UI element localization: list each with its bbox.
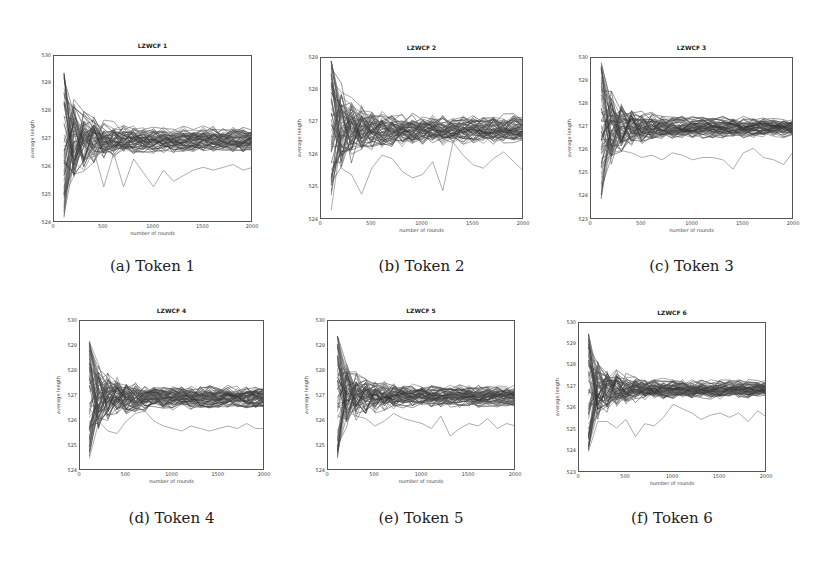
y-tick-label: 528 <box>309 368 325 373</box>
line-series-group <box>579 323 765 471</box>
subfigure-caption: (f) Token 6 <box>592 509 752 527</box>
x-tick-label: 0 <box>578 221 602 226</box>
chart-title: LZWCF 1 <box>53 42 252 49</box>
y-tick-label: 530 <box>560 320 576 325</box>
y-tick-label: 526 <box>560 405 576 410</box>
outlier-line <box>331 139 522 194</box>
x-tick-label: 2000 <box>754 474 778 479</box>
y-tick-label: 528 <box>302 87 318 92</box>
data-line <box>337 371 514 456</box>
y-tick-label: 528 <box>572 101 588 106</box>
x-axis-label: number of rounds <box>327 478 515 484</box>
y-tick-label: 527 <box>302 119 318 124</box>
y-tick-label: 525 <box>309 443 325 448</box>
y-tick-label: 527 <box>61 393 77 398</box>
y-tick-label: 525 <box>560 427 576 432</box>
line-series-group <box>591 58 792 218</box>
outlier-line <box>89 409 263 434</box>
x-tick-label: 2000 <box>240 224 264 229</box>
x-tick-label: 0 <box>67 472 91 477</box>
chart-title: LZWCF 5 <box>327 307 515 314</box>
chart-title: LZWCF 2 <box>320 44 523 51</box>
y-tick-label: 528 <box>61 368 77 373</box>
y-tick-label: 525 <box>572 170 588 175</box>
x-tick-label: 1000 <box>160 472 184 477</box>
x-tick-label: 500 <box>113 472 137 477</box>
x-tick-label: 1500 <box>730 221 754 226</box>
x-tick-label: 0 <box>566 474 590 479</box>
data-line <box>64 73 251 170</box>
x-axis-label: number of rounds <box>79 478 264 484</box>
y-tick-label: 529 <box>572 78 588 83</box>
y-axis-label: average length <box>55 365 61 425</box>
plot-area <box>53 55 252 222</box>
line-series-group <box>328 321 514 469</box>
x-axis-label: number of rounds <box>53 230 252 236</box>
x-tick-label: 2000 <box>781 221 805 226</box>
plot-area <box>327 320 515 470</box>
x-tick-label: 0 <box>308 221 332 226</box>
y-tick-label: 530 <box>35 53 51 58</box>
y-axis-label: average length <box>29 109 35 169</box>
y-tick-label: 524 <box>572 193 588 198</box>
x-tick-label: 2000 <box>511 221 535 226</box>
y-tick-label: 530 <box>309 318 325 323</box>
y-tick-label: 529 <box>35 80 51 85</box>
x-tick-label: 1000 <box>680 221 704 226</box>
y-tick-label: 530 <box>61 318 77 323</box>
y-tick-label: 525 <box>35 192 51 197</box>
y-tick-label: 525 <box>61 443 77 448</box>
y-tick-label: 526 <box>35 164 51 169</box>
y-tick-label: 529 <box>302 55 318 60</box>
y-axis-label: average length <box>303 365 309 425</box>
y-tick-label: 526 <box>61 418 77 423</box>
y-tick-label: 527 <box>560 384 576 389</box>
subfigure-caption: (b) Token 2 <box>342 257 502 275</box>
plot-area <box>79 320 264 470</box>
x-tick-label: 1500 <box>460 221 484 226</box>
line-series-group <box>54 56 251 221</box>
y-tick-label: 524 <box>560 448 576 453</box>
plot-area <box>590 57 793 219</box>
x-tick-label: 2000 <box>503 472 527 477</box>
subfigure-caption: (d) Token 4 <box>92 509 252 527</box>
outlier-line <box>601 144 792 170</box>
x-tick-label: 1000 <box>141 224 165 229</box>
x-tick-label: 0 <box>315 472 339 477</box>
y-axis-label: average length <box>296 108 302 168</box>
line-series-group <box>321 58 522 218</box>
y-axis-label: average length <box>566 108 572 168</box>
data-line <box>337 347 514 420</box>
x-axis-label: number of rounds <box>578 480 766 486</box>
chart-title: LZWCF 3 <box>590 44 793 51</box>
x-tick-label: 1000 <box>660 474 684 479</box>
line-series-group <box>80 321 263 469</box>
subfigure-caption: (e) Token 5 <box>341 509 501 527</box>
x-tick-label: 0 <box>41 224 65 229</box>
x-tick-label: 1500 <box>456 472 480 477</box>
y-tick-label: 526 <box>302 152 318 157</box>
y-tick-label: 530 <box>572 55 588 60</box>
y-tick-label: 526 <box>309 418 325 423</box>
x-tick-label: 2000 <box>252 472 276 477</box>
y-axis-label: average length <box>554 367 560 427</box>
y-tick-label: 525 <box>302 184 318 189</box>
subfigure-caption: (c) Token 3 <box>612 257 772 275</box>
plot-area <box>578 322 766 472</box>
plot-area <box>320 57 523 219</box>
x-axis-label: number of rounds <box>320 227 523 233</box>
y-tick-label: 528 <box>560 362 576 367</box>
data-line <box>64 77 251 177</box>
x-tick-label: 1000 <box>409 472 433 477</box>
y-tick-label: 529 <box>61 343 77 348</box>
x-tick-label: 500 <box>359 221 383 226</box>
subfigure-caption: (a) Token 1 <box>73 257 233 275</box>
x-tick-label: 1000 <box>410 221 434 226</box>
x-tick-label: 1500 <box>206 472 230 477</box>
y-tick-label: 526 <box>572 147 588 152</box>
chart-title: LZWCF 6 <box>578 309 766 316</box>
x-tick-label: 500 <box>91 224 115 229</box>
y-tick-label: 529 <box>309 343 325 348</box>
y-tick-label: 527 <box>35 136 51 141</box>
x-tick-label: 500 <box>629 221 653 226</box>
